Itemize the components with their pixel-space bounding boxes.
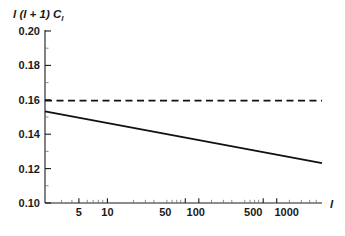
series-spectrum bbox=[45, 111, 322, 163]
y-tick-label: 0.18 bbox=[19, 59, 40, 71]
x-tick-label: 100 bbox=[187, 206, 205, 218]
x-tick-label: 5 bbox=[76, 206, 82, 218]
y-tick-label: 0.12 bbox=[19, 163, 40, 175]
x-tick-label: 50 bbox=[159, 206, 171, 218]
y-tick-label: 0.10 bbox=[19, 197, 40, 209]
y-axis-tick-labels: 0.20 0.18 0.16 0.14 0.12 0.10 bbox=[19, 25, 41, 209]
x-axis-tick-labels: 5 10 50 100 500 1000 bbox=[76, 206, 299, 218]
x-axis-title: l bbox=[330, 198, 334, 210]
y-tick-label: 0.16 bbox=[19, 94, 40, 106]
chart-figure: l (l + 1) Cl l 0.20 0.18 0.16 0.14 0.12 bbox=[0, 0, 345, 236]
y-axis-title-main: l (l + 1) C bbox=[13, 8, 62, 20]
chart-canvas: l (l + 1) Cl l 0.20 0.18 0.16 0.14 0.12 bbox=[0, 0, 345, 236]
y-axis-ticks bbox=[45, 31, 51, 203]
x-tick-label: 10 bbox=[101, 206, 113, 218]
x-tick-label: 1000 bbox=[274, 206, 298, 218]
data-series-group bbox=[45, 101, 322, 163]
x-axis-major-ticks bbox=[79, 198, 277, 203]
x-tick-label: 500 bbox=[244, 206, 262, 218]
y-tick-label: 0.14 bbox=[19, 128, 41, 140]
y-axis-title: l (l + 1) Cl bbox=[13, 8, 64, 23]
y-tick-label: 0.20 bbox=[19, 25, 40, 37]
y-axis-title-subscript: l bbox=[61, 14, 64, 23]
